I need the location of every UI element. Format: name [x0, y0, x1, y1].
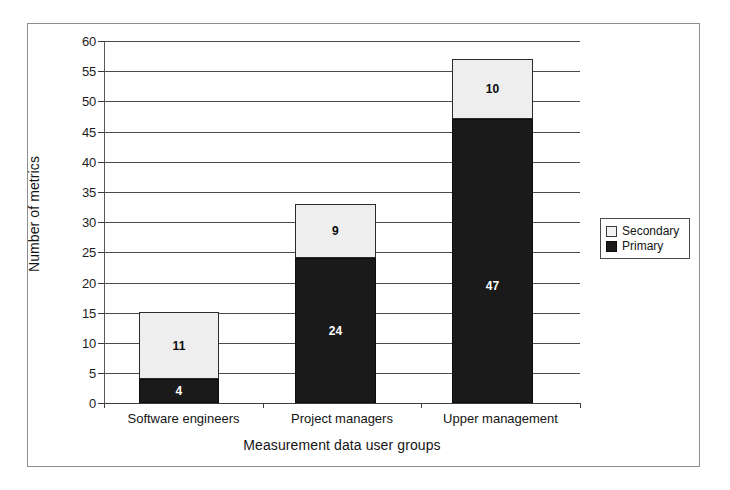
y-axis-title: Number of metrics	[26, 119, 42, 309]
y-tick-label: 50	[66, 95, 96, 108]
x-category-label-project-managers: Project managers	[263, 411, 421, 426]
legend-item-secondary[interactable]: Secondary	[606, 224, 684, 238]
bar-group-upper-management[interactable]: 10 47	[452, 41, 533, 403]
x-axis-line	[104, 403, 580, 404]
y-tick-label: 10	[66, 337, 96, 350]
y-tick-label: 15	[66, 307, 96, 320]
legend-item-primary[interactable]: Primary	[606, 239, 684, 253]
bar-value-label: 10	[486, 82, 500, 96]
legend-label: Primary	[622, 240, 663, 252]
y-tick-label: 55	[66, 65, 96, 78]
y-tick-label: 35	[66, 186, 96, 199]
bar-group-project-managers[interactable]: 9 24	[295, 41, 376, 403]
x-tick-mark	[104, 403, 105, 408]
legend-label: Secondary	[622, 225, 679, 237]
y-tick-label: 20	[66, 277, 96, 290]
bar-value-label: 11	[172, 339, 185, 353]
bar-segment-secondary[interactable]: 11	[139, 312, 219, 379]
plot-area: 11 4 9 24 10 47	[104, 41, 580, 403]
x-tick-mark	[421, 403, 422, 408]
bar-segment-primary[interactable]: 4	[139, 379, 219, 403]
y-tick-label: 30	[66, 216, 96, 229]
y-axis-tick-labels: 60 55 50 45 40 35 30 25 20 15 10 5 0	[58, 0, 96, 490]
y-tick-label: 45	[66, 126, 96, 139]
bar-segment-secondary[interactable]: 9	[295, 204, 376, 258]
y-tick-label: 40	[66, 156, 96, 169]
bar-value-label: 47	[486, 279, 500, 293]
bar-value-label: 4	[176, 384, 183, 398]
bar-value-label: 9	[332, 224, 339, 238]
legend-swatch-primary-icon	[606, 241, 617, 252]
y-tick-label: 60	[66, 35, 96, 48]
bar-group-software-engineers[interactable]: 11 4	[139, 41, 219, 403]
x-axis-title: Measurement data user groups	[104, 437, 580, 453]
y-tick-label: 25	[66, 246, 96, 259]
bar-segment-secondary[interactable]: 10	[452, 59, 533, 119]
legend-swatch-secondary-icon	[606, 226, 617, 237]
x-category-label-software-engineers: Software engineers	[104, 411, 263, 426]
y-tick-label: 0	[66, 397, 96, 410]
y-tick-label: 5	[66, 367, 96, 380]
bar-segment-primary[interactable]: 47	[452, 119, 533, 403]
x-category-label-upper-management: Upper management	[421, 411, 580, 426]
x-tick-mark	[263, 403, 264, 408]
bar-segment-primary[interactable]: 24	[295, 258, 376, 403]
x-tick-mark	[580, 403, 581, 408]
bar-value-label: 24	[329, 324, 343, 338]
legend[interactable]: Secondary Primary	[600, 218, 690, 259]
